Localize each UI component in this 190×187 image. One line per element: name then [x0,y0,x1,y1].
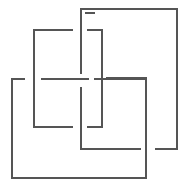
interlocking-squares-diagram [0,0,190,187]
line-segments [12,9,177,178]
square-a-left-lower [81,88,140,149]
square-c-top-right [12,79,146,178]
